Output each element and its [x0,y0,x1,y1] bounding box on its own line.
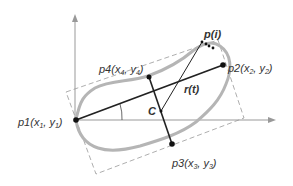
point-p2 [220,62,226,68]
label-rt: r(t) [184,84,199,95]
label-p1-end: ) [59,116,63,128]
label-p2-name: p2 [228,62,240,74]
shape-contour [76,43,230,150]
point-p1 [73,117,79,123]
label-p1-name: p1 [18,116,30,128]
label-p2: p2(x2, y2) [228,63,273,75]
label-p2-mid: , y [253,62,265,74]
label-p4-mid: , y [124,63,136,75]
label-p3-mid: , y [197,157,209,169]
point-p4 [147,75,152,80]
label-p4: p4(x4, y4) [99,64,144,76]
label-p3-name: p3 [172,157,184,169]
label-p4-end: ) [140,63,144,75]
diagram-svg [0,0,293,186]
label-p3: p3(x3, y3) [172,158,217,170]
label-pi: p(i) [204,29,221,40]
label-p4-name: p4 [99,63,111,75]
label-c: C [148,106,156,117]
label-p2-end: ) [269,62,273,74]
label-p1-mid: , y [43,116,55,128]
label-p3-end: ) [213,157,217,169]
diagram-canvas: p1(x1, y1) p2(x2, y2) p3(x3, y3) p4(x4, … [0,0,293,186]
point-c [160,110,163,113]
angle-arc [120,104,122,120]
point-p3 [169,141,175,147]
label-p1: p1(x1, y1) [18,117,63,129]
